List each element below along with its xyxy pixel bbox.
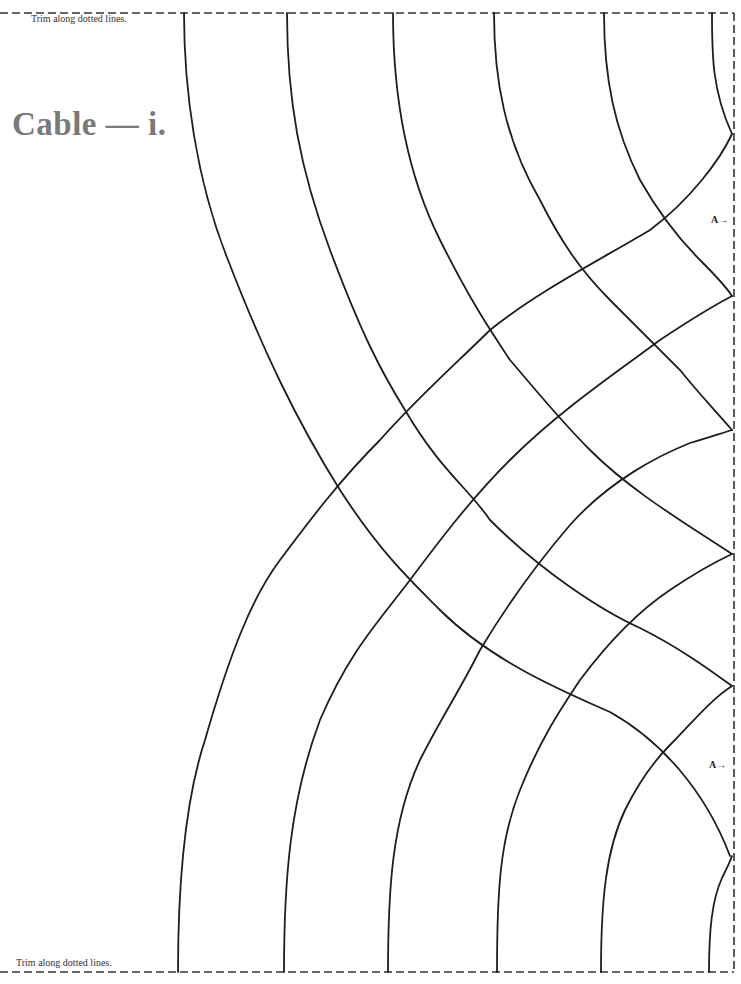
- trim-instruction-bottom: Trim along dotted lines.: [16, 957, 112, 968]
- trim-border: [0, 13, 734, 972]
- alignment-marker-a-bottom: A→: [709, 759, 726, 770]
- top-arcs: [184, 13, 732, 856]
- page-title: Cable — i.: [12, 106, 166, 143]
- alignment-marker-a-top: A→: [711, 214, 728, 225]
- bottom-arcs: [178, 134, 732, 972]
- trim-instruction-top: Trim along dotted lines.: [31, 13, 127, 24]
- cable-pattern-drawing: [0, 0, 741, 984]
